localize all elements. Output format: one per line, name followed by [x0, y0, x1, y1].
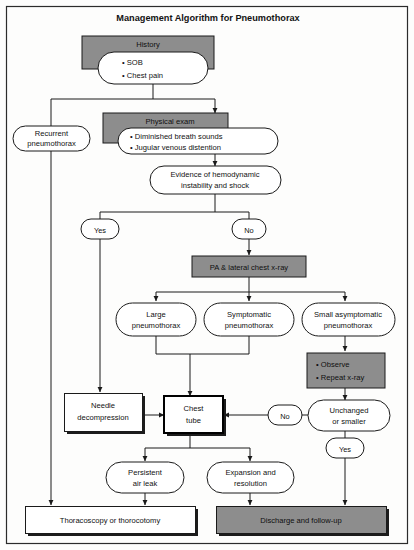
chest-tube-box: [164, 396, 223, 433]
evidence-line-2: instability and shock: [181, 181, 249, 190]
node-symptomatic-pneumothorax: Symptomatic pneumothorax: [204, 303, 294, 336]
history-item-1: • SOB: [122, 58, 143, 67]
unchanged-line-1: Unchanged: [330, 406, 369, 415]
large-line-2: pneumothorax: [132, 321, 181, 330]
decision-yes-2: Yes: [326, 438, 364, 458]
node-physical-exam: Physical exam • Diminished breath sounds…: [103, 113, 278, 154]
yes-1-label: Yes: [94, 226, 106, 235]
node-thoracoscopy: Thoracoscopy or thorocotomy: [26, 507, 199, 537]
node-unchanged-or-smaller: Unchanged or smaller: [308, 400, 390, 431]
large-line-1: Large: [146, 310, 165, 319]
node-small-asymptomatic-pneumothorax: Small asymptomatic pneumothorax: [302, 303, 395, 336]
expansion-line-1: Expansion and: [225, 468, 275, 477]
yes-2-label: Yes: [339, 445, 351, 454]
node-large-pneumothorax: Large pneumothorax: [116, 303, 196, 336]
node-needle-decompression: Needle decompression: [65, 394, 146, 435]
physical-exam-item-1: • Diminished breath sounds: [130, 132, 223, 141]
discharge-label: Discharge and follow-up: [260, 516, 341, 525]
symptomatic-pneumothorax-oval: [204, 303, 294, 336]
flowchart-canvas: Management Algorithm for Pneumothorax: [0, 0, 414, 550]
needle-line-1: Needle: [91, 401, 115, 410]
small-asymp-line-2: pneumothorax: [324, 321, 373, 330]
small-asymp-line-1: Small asymptomatic: [314, 310, 382, 319]
thoracoscopy-label: Thoracoscopy or thorocotomy: [60, 516, 161, 525]
expansion-resolution-oval: [207, 462, 294, 493]
small-asymptomatic-oval: [302, 303, 395, 336]
node-discharge: Discharge and follow-up: [217, 507, 390, 537]
symptomatic-line-1: Symptomatic: [227, 310, 271, 319]
observe-repeat-box: [307, 353, 385, 388]
observe-item-2: • Repeat x-ray: [316, 373, 364, 382]
no-1-label: No: [244, 226, 253, 235]
physical-exam-header-label: Physical exam: [146, 117, 195, 126]
node-persistent-air-leak: Persistent air leak: [106, 462, 184, 493]
decision-no-1: No: [232, 219, 266, 239]
large-pneumothorax-oval: [116, 303, 196, 336]
node-history: History • SOB • Chest pain: [82, 36, 214, 84]
observe-item-1: • Observe: [316, 360, 349, 369]
persistent-line-2: air leak: [133, 479, 158, 488]
evidence-line-1: Evidence of hemodynamic: [170, 170, 259, 179]
expansion-line-2: resolution: [234, 479, 267, 488]
node-evidence-instability: Evidence of hemodynamic instability and …: [150, 166, 281, 194]
no-2-label: No: [280, 412, 289, 421]
chest-xray-label: PA & lateral chest x-ray: [210, 263, 289, 272]
node-observe-repeat: • Observe • Repeat x-ray: [307, 353, 385, 388]
unchanged-line-2: or smaller: [332, 417, 366, 426]
decision-yes-1: Yes: [81, 219, 119, 239]
pneumothorax-algorithm-figure: Management Algorithm for Pneumothorax: [0, 0, 414, 550]
node-chest-xray: PA & lateral chest x-ray: [192, 256, 306, 277]
history-item-2: • Chest pain: [122, 71, 163, 80]
needle-line-2: decompression: [77, 413, 129, 422]
recurrent-line-1: Recurrent: [35, 129, 69, 138]
chest-tube-line-2: tube: [186, 416, 201, 425]
page-title: Management Algorithm for Pneumothorax: [116, 13, 300, 23]
recurrent-line-2: pneumothorax: [27, 139, 76, 148]
unchanged-or-smaller-oval: [308, 400, 390, 431]
physical-exam-item-2: • Jugular venous distention: [130, 143, 221, 152]
node-chest-tube: Chest tube: [164, 396, 226, 436]
decision-no-2: No: [268, 405, 302, 425]
persistent-line-1: Persistent: [128, 468, 163, 477]
persistent-air-leak-oval: [106, 462, 184, 493]
chest-tube-line-1: Chest: [184, 404, 205, 413]
symptomatic-line-2: pneumothorax: [225, 321, 274, 330]
node-expansion-resolution: Expansion and resolution: [207, 462, 294, 493]
history-header-label: History: [136, 40, 160, 49]
node-recurrent-pneumothorax: Recurrent pneumothorax: [13, 126, 90, 151]
